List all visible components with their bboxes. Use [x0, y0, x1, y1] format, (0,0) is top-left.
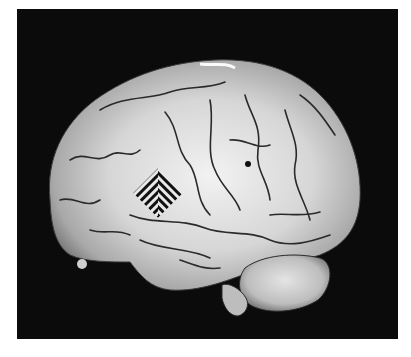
brain-render — [0, 0, 411, 357]
cerebellum — [240, 255, 330, 311]
